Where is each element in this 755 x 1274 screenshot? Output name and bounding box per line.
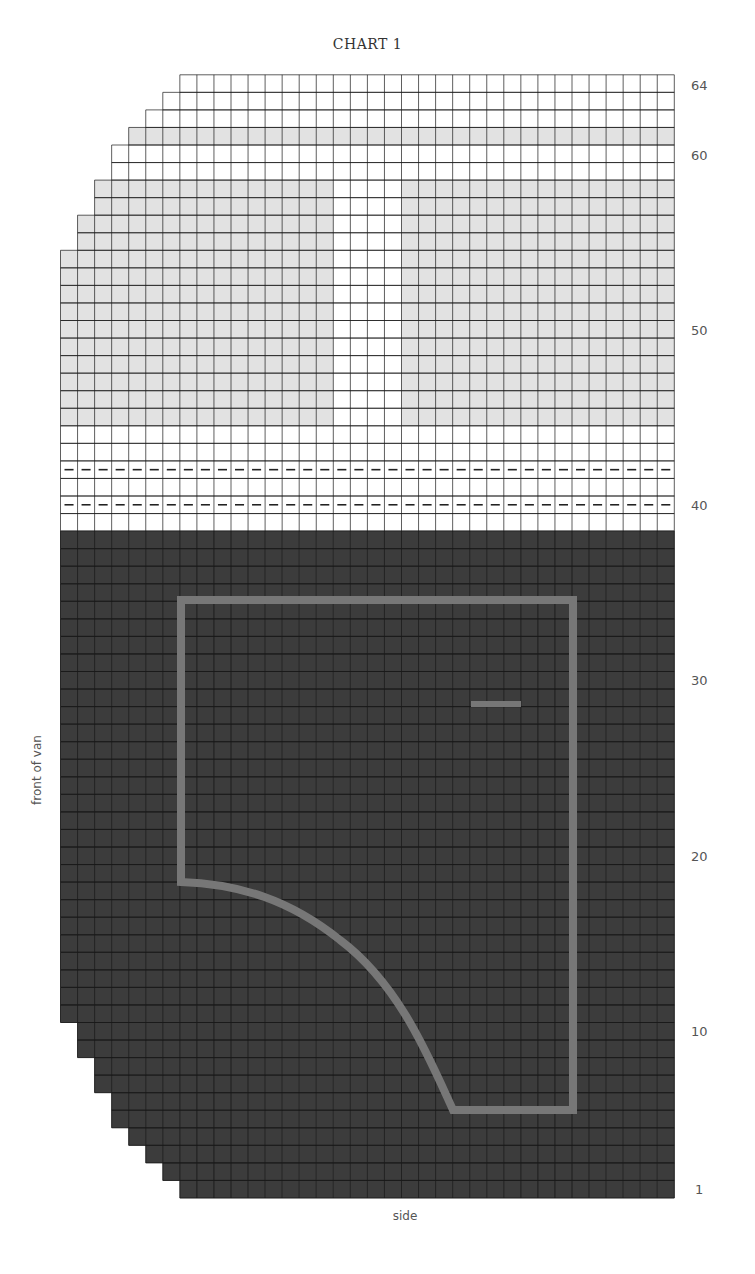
row-label-60: 60 [691, 149, 708, 163]
x-axis-label: side [368, 1209, 442, 1223]
row-label-40: 40 [691, 499, 708, 513]
row-label-50: 50 [691, 324, 708, 338]
row-label-20: 20 [691, 850, 708, 864]
row-label-30: 30 [691, 674, 708, 688]
row-label-64: 64 [691, 79, 708, 93]
row-label-1: 1 [695, 1183, 703, 1197]
row-label-10: 10 [691, 1025, 708, 1039]
knitting-chart-grid [0, 0, 755, 1274]
handle-bar [471, 701, 521, 707]
y-axis-label: front of van [30, 735, 44, 805]
